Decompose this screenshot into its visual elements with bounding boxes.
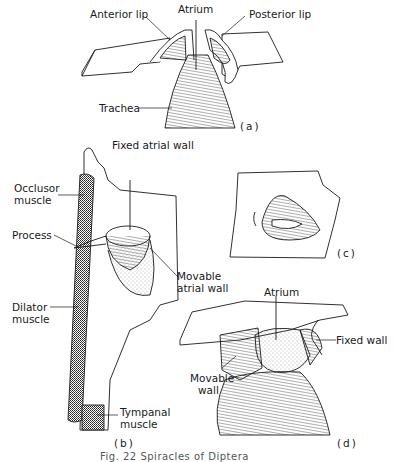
label-atrium-d: Atrium <box>264 286 299 298</box>
label-fixed-wall: Fixed wall <box>336 334 387 346</box>
panel-d-drawing <box>180 296 348 435</box>
panel-b-drawing <box>68 148 178 430</box>
panel-id-a: (a) <box>240 120 261 132</box>
label-process: Process <box>12 229 52 241</box>
label-anterior-lip: Anterior lip <box>90 8 148 20</box>
label-posterior-lip: Posterior lip <box>249 8 311 20</box>
label-occlusor: Occlusor <box>14 182 60 194</box>
label-dilator-muscle: muscle <box>12 313 50 325</box>
label-tympanal-muscle: muscle <box>120 418 158 430</box>
label-movable-atrial-wall: atrial wall <box>177 282 228 294</box>
label-occlusor-muscle: muscle <box>14 194 52 206</box>
label-trachea: Trachea <box>99 102 140 114</box>
label-movable-wall: wall <box>198 384 219 396</box>
panel-id-d: (d) <box>337 437 358 449</box>
label-movable: Movable <box>177 270 221 282</box>
label-fixed-atrial-wall: Fixed atrial wall <box>112 139 194 151</box>
figure-caption: Fig. 22 Spiracles of Diptera <box>100 451 249 462</box>
panel-id-c: (c) <box>337 247 357 259</box>
panel-c-drawing <box>230 171 340 258</box>
label-movable-d: Movable <box>190 372 234 384</box>
label-dilator: Dilator <box>12 301 47 313</box>
label-atrium-a: Atrium <box>178 3 213 15</box>
panel-id-b: (b) <box>114 437 135 449</box>
label-tympanal: Tympanal <box>120 406 170 418</box>
